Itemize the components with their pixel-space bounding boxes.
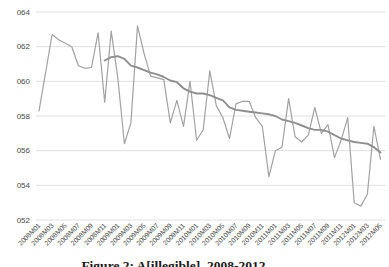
y-tick-label: 060 bbox=[17, 77, 31, 86]
y-axis-labels: 064062060058056054052 bbox=[17, 8, 31, 225]
smoothed-trend-line bbox=[105, 56, 381, 152]
line-chart: 0640620600580560540522008M012008M032008M… bbox=[0, 0, 389, 256]
x-axis-labels: 2008M012008M032008M052008M072008M092008M… bbox=[17, 222, 384, 247]
chart-page: 0640620600580560540522008M012008M032008M… bbox=[0, 0, 389, 267]
y-tick-label: 054 bbox=[17, 181, 31, 190]
y-tick-label: 058 bbox=[17, 112, 31, 121]
y-tick-label: 064 bbox=[17, 8, 31, 17]
gridlines bbox=[36, 12, 386, 220]
y-tick-label: 056 bbox=[17, 146, 31, 155]
y-tick-label: 052 bbox=[17, 216, 31, 225]
y-tick-label: 062 bbox=[17, 42, 31, 51]
figure-caption: Figure 2: A[illegible], 2008-2012 bbox=[0, 258, 389, 267]
